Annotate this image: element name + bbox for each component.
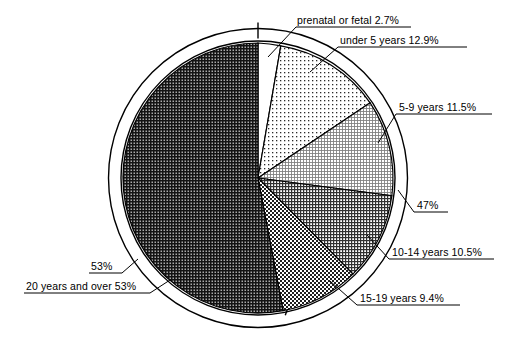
- pie-chart-figure: prenatal or fetal 2.7% under 5 years 12.…: [0, 0, 508, 337]
- label-5-9-years: 5-9 years 11.5%: [399, 101, 476, 113]
- label-prenatal-or-fetal: prenatal or fetal 2.7%: [297, 14, 399, 26]
- label-10-14-years: 10-14 years 10.5%: [392, 246, 482, 258]
- label-47-percent: 47%: [417, 199, 438, 211]
- label-20-years-and-over: 20 years and over 53%: [26, 280, 136, 292]
- label-15-19-years: 15-19 years 9.4%: [360, 292, 444, 304]
- label-53-percent: 53%: [91, 260, 112, 272]
- label-under-5-years: under 5 years 12.9%: [340, 34, 439, 46]
